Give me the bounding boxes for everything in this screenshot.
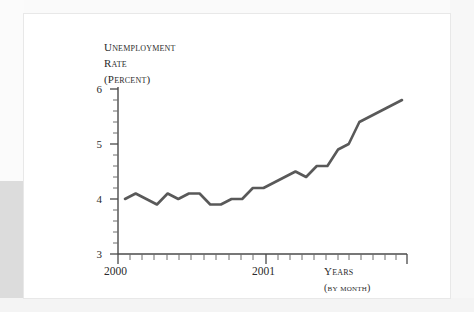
page-top-margin [0, 0, 474, 14]
page-left-gray-block [0, 181, 24, 312]
page-left-margin-upper [0, 0, 24, 181]
y-axis-title-line3: (Percent) [104, 72, 176, 88]
unemployment-line-chart: 6 5 4 3 [24, 14, 450, 298]
x-axis-major-ticks [118, 254, 407, 264]
page-bottom-margin [0, 298, 474, 312]
y-tick-label-4: 4 [97, 193, 103, 205]
unemployment-rate-line [125, 100, 402, 205]
y-tick-label-5: 5 [97, 138, 103, 150]
x-axis-subtitle: (by month) [324, 282, 371, 293]
chart-panel: 6 5 4 3 Unemployment Rate (Percent) 2000… [24, 14, 450, 298]
y-tick-label-3: 3 [97, 248, 103, 260]
page-right-margin [450, 0, 474, 312]
y-axis-title: Unemployment Rate (Percent) [104, 40, 176, 88]
y-axis-title-line2: Rate [104, 56, 176, 72]
y-axis-minor-ticks [113, 100, 118, 243]
y-tick-label-6: 6 [97, 83, 103, 95]
x-axis-title: Years [324, 265, 353, 277]
x-axis-minor-ticks [130, 254, 396, 260]
chart-screenshot-root: 6 5 4 3 Unemployment Rate (Percent) 2000… [0, 0, 474, 312]
y-axis-title-line1: Unemployment [104, 40, 176, 56]
x-tick-label-2000: 2000 [104, 265, 127, 277]
y-axis-major-ticks [110, 89, 118, 254]
x-tick-label-2001: 2001 [252, 265, 275, 277]
